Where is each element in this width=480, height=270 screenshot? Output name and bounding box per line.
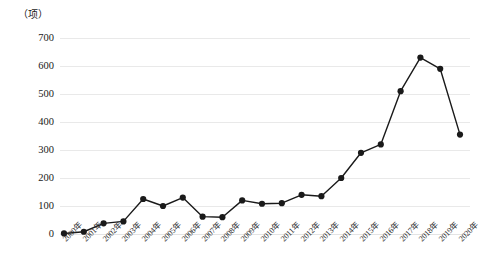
data-point-marker [457, 132, 463, 138]
data-point-marker [318, 193, 324, 199]
y-axis-tick-label: 0 [20, 229, 54, 240]
y-axis-tick-label: 400 [20, 117, 54, 128]
data-point-marker [338, 175, 344, 181]
y-axis-tick-labels: 7006005004003002001000 [14, 38, 54, 234]
data-point-marker [358, 150, 364, 156]
y-axis-tick-label: 700 [20, 33, 54, 44]
data-point-marker [180, 195, 186, 201]
data-point-marker [259, 201, 265, 207]
y-axis-tick-label: 100 [20, 201, 54, 212]
data-point-marker [140, 196, 146, 202]
line-chart: （项） 7006005004003002001000 2000年2001年200… [0, 0, 480, 270]
y-axis-tick-label: 500 [20, 89, 54, 100]
y-axis-unit-label: （项） [18, 9, 48, 21]
data-point-marker [299, 192, 305, 198]
y-axis-tick-label: 300 [20, 145, 54, 156]
series-line-group [60, 38, 470, 234]
data-point-marker [160, 203, 166, 209]
data-point-marker [279, 200, 285, 206]
data-point-marker [437, 66, 443, 72]
x-axis-tick-labels: 2000年2001年2002年2003年2004年2005年2006年2007年… [60, 234, 470, 270]
data-point-marker [219, 214, 225, 220]
data-point-marker [239, 197, 245, 203]
data-point-marker [200, 214, 206, 220]
plot-area [60, 38, 470, 234]
y-axis-tick-label: 200 [20, 173, 54, 184]
data-point-marker [398, 88, 404, 94]
series-polyline [64, 58, 460, 234]
y-axis-tick-label: 600 [20, 61, 54, 72]
series-markers [61, 55, 463, 237]
data-point-marker [378, 141, 384, 147]
data-point-marker [417, 55, 423, 61]
